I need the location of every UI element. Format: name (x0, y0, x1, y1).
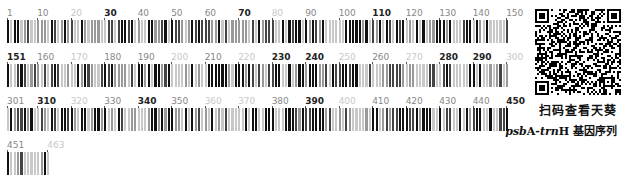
position-label: 430 (439, 96, 456, 106)
base-bar (315, 20, 317, 43)
base-bar (198, 108, 200, 131)
base-bar (101, 108, 103, 131)
base-bar (201, 20, 203, 43)
base-bar (288, 20, 290, 43)
base-bar (459, 20, 461, 43)
base-bar (87, 108, 89, 131)
base-bar (44, 64, 46, 87)
base-bar (154, 64, 156, 87)
base-bar (188, 64, 190, 87)
base-bar (473, 20, 475, 43)
base-bar (215, 108, 217, 131)
base-bar (185, 108, 187, 131)
base-bar (7, 108, 9, 131)
base-bar (51, 108, 53, 131)
base-bar (392, 108, 394, 131)
base-bar (429, 64, 431, 87)
base-bar (315, 108, 317, 131)
position-label: 120 (406, 8, 423, 18)
base-bar (392, 20, 394, 43)
base-bar (255, 108, 257, 131)
base-bar (268, 20, 270, 43)
base-bar (211, 108, 213, 131)
base-bar (27, 64, 29, 87)
base-bar (312, 108, 314, 131)
base-bar (104, 108, 106, 131)
base-bar (81, 64, 83, 87)
base-bar (469, 108, 471, 131)
base-bar (362, 20, 364, 43)
base-bar (178, 64, 180, 87)
base-bar (235, 108, 237, 131)
base-bar (489, 20, 491, 43)
base-bar (396, 20, 398, 43)
base-bar (161, 20, 163, 43)
scan-caption: 扫码查看天葵 (539, 101, 617, 118)
position-label: 170 (71, 52, 88, 62)
position-label: 150 (506, 8, 523, 18)
position-label: 60 (205, 8, 216, 18)
base-bar (499, 20, 501, 43)
base-bar (426, 20, 428, 43)
sequence-bars (7, 152, 512, 175)
base-bar (325, 108, 327, 131)
base-bar (309, 20, 311, 43)
base-bar (255, 20, 257, 43)
base-bar (463, 20, 465, 43)
base-bar (87, 20, 89, 43)
base-bar (446, 20, 448, 43)
base-bar (416, 64, 418, 87)
base-bar (57, 108, 59, 131)
base-bar (111, 20, 113, 43)
base-bar (339, 64, 341, 87)
base-bar (138, 108, 140, 131)
base-bar (131, 108, 133, 131)
base-bar (419, 64, 421, 87)
base-bar (10, 20, 12, 43)
base-bar (456, 64, 458, 87)
base-bar (30, 108, 32, 131)
base-bar (208, 64, 210, 87)
base-bar (436, 108, 438, 131)
base-bar (372, 20, 374, 43)
base-bar (111, 64, 113, 87)
position-label: 320 (71, 96, 88, 106)
base-bar (7, 152, 9, 175)
base-bar (339, 108, 341, 131)
base-bar (198, 64, 200, 87)
base-bar (151, 64, 153, 87)
base-bar (409, 64, 411, 87)
base-bar (416, 108, 418, 131)
position-label: 270 (406, 52, 423, 62)
base-bar (168, 108, 170, 131)
base-bar (483, 20, 485, 43)
base-bar (71, 64, 73, 87)
base-bar (479, 20, 481, 43)
position-label: 420 (406, 96, 423, 106)
base-bar (141, 108, 143, 131)
qr-code[interactable] (535, 9, 621, 95)
base-bar (61, 20, 63, 43)
base-bar (469, 64, 471, 87)
base-bar (124, 20, 126, 43)
base-bar (231, 64, 233, 87)
base-bar (7, 20, 9, 43)
base-bar (315, 64, 317, 87)
base-bar (74, 64, 76, 87)
base-bar (278, 108, 280, 131)
base-bar (439, 64, 441, 87)
base-bar (188, 108, 190, 131)
base-bar (396, 108, 398, 131)
position-label: 301 (7, 96, 24, 106)
base-bar (399, 108, 401, 131)
base-bar (218, 20, 220, 43)
base-bar (245, 20, 247, 43)
base-bar (144, 108, 146, 131)
base-bar (148, 64, 150, 87)
base-bar (342, 64, 344, 87)
base-bar (181, 108, 183, 131)
position-label: 130 (439, 8, 456, 18)
base-bar (372, 108, 374, 131)
base-bar (453, 108, 455, 131)
base-bar (221, 108, 223, 131)
